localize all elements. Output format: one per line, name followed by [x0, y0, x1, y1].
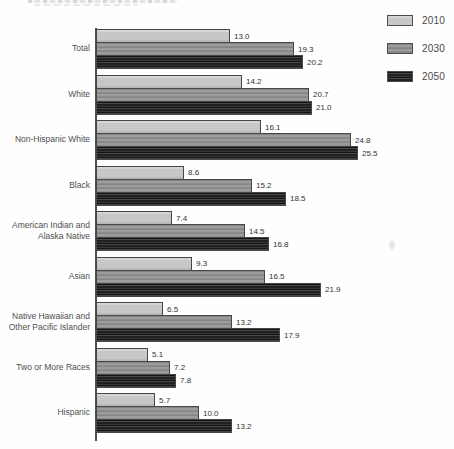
bar-row-2050: 7.8 — [96, 374, 454, 388]
bar-row-2050: 21.0 — [96, 101, 454, 115]
value-label: 7.2 — [174, 363, 185, 372]
legend-label: 2010 — [422, 15, 445, 26]
bar-2050 — [96, 55, 303, 69]
bar-2010 — [96, 393, 155, 407]
value-label: 5.7 — [159, 396, 170, 405]
bar-row-2050: 13.2 — [96, 419, 454, 433]
category-label: Black — [0, 180, 96, 191]
bar-2050 — [96, 419, 232, 433]
bar-stack: 5.17.27.8 — [96, 348, 454, 388]
bar-row-2030: 24.8 — [96, 133, 454, 147]
bar-row-2030: 7.2 — [96, 361, 454, 375]
bar-row-2030: 13.2 — [96, 315, 454, 329]
bar-2030 — [96, 224, 245, 238]
bar-group: Black8.615.218.5 — [0, 166, 454, 206]
bar-group: Non-Hispanic White16.124.825.5 — [0, 120, 454, 160]
bar-row-2050: 20.2 — [96, 55, 454, 69]
bar-row-2010: 5.1 — [96, 348, 454, 362]
bar-2010 — [96, 29, 230, 43]
bar-row-2010: 16.1 — [96, 120, 454, 134]
bar-row-2050: 25.5 — [96, 146, 454, 160]
bar-row-2010: 13.0 — [96, 29, 454, 43]
value-label: 21.9 — [325, 285, 341, 294]
value-label: 14.5 — [249, 227, 265, 236]
bar-row-2030: 20.7 — [96, 88, 454, 102]
value-label: 25.5 — [362, 149, 378, 158]
value-label: 20.2 — [307, 58, 323, 67]
category-label: Total — [0, 43, 96, 54]
value-label: 24.8 — [355, 136, 371, 145]
bar-stack: 6.513.217.9 — [96, 302, 454, 342]
bar-2010 — [96, 348, 148, 362]
bar-2050 — [96, 328, 280, 342]
value-label: 9.3 — [196, 259, 207, 268]
bar-row-2010: 5.7 — [96, 393, 454, 407]
bar-2010 — [96, 302, 163, 316]
value-label: 10.0 — [203, 409, 219, 418]
value-label: 16.1 — [265, 123, 281, 132]
value-label: 21.0 — [316, 103, 332, 112]
bar-2010 — [96, 166, 184, 180]
bar-stack: 9.316.521.9 — [96, 257, 454, 297]
category-label: Non-Hispanic White — [0, 134, 96, 145]
bar-2030 — [96, 315, 232, 329]
category-label: Asian — [0, 271, 96, 282]
bar-row-2050: 18.5 — [96, 192, 454, 206]
value-label: 15.2 — [256, 181, 272, 190]
bar-group: Total13.019.320.2 — [0, 29, 454, 69]
value-label: 7.4 — [176, 214, 187, 223]
bar-2050 — [96, 101, 312, 115]
bar-group: Two or More Races5.17.27.8 — [0, 348, 454, 388]
bar-row-2050: 16.8 — [96, 237, 454, 251]
bar-group: White14.220.721.0 — [0, 75, 454, 115]
bar-2010 — [96, 257, 192, 271]
bar-2010 — [96, 75, 242, 89]
bar-stack: 8.615.218.5 — [96, 166, 454, 206]
cropped-title-fragment-line2 — [34, 4, 138, 6]
bar-2030 — [96, 270, 265, 284]
value-label: 18.5 — [290, 194, 306, 203]
bar-row-2030: 19.3 — [96, 42, 454, 56]
value-label: 5.1 — [152, 350, 163, 359]
bar-stack: 16.124.825.5 — [96, 120, 454, 160]
bar-group: Native Hawaiian and Other Pacific Island… — [0, 302, 454, 342]
bar-2030 — [96, 361, 170, 375]
bar-row-2010: 9.3 — [96, 257, 454, 271]
value-label: 20.7 — [313, 90, 329, 99]
value-label: 16.8 — [273, 240, 289, 249]
bar-group: Asian9.316.521.9 — [0, 257, 454, 297]
value-label: 14.2 — [246, 77, 262, 86]
bar-group: Hispanic5.710.013.2 — [0, 393, 454, 433]
bar-2030 — [96, 406, 199, 420]
cropped-title-fragment — [28, 0, 178, 3]
legend-item-2010: 2010 — [387, 15, 445, 26]
bar-row-2010: 6.5 — [96, 302, 454, 316]
bar-groups: Total13.019.320.2White14.220.721.0Non-Hi… — [0, 29, 454, 433]
value-label: 13.2 — [236, 422, 252, 431]
bar-2010 — [96, 211, 172, 225]
value-label: 6.5 — [167, 305, 178, 314]
bar-2010 — [96, 120, 261, 134]
bar-row-2030: 15.2 — [96, 179, 454, 193]
bar-chart: Total13.019.320.2White14.220.721.0Non-Hi… — [0, 29, 454, 439]
bar-2050 — [96, 192, 286, 206]
category-label: Native Hawaiian and Other Pacific Island… — [0, 311, 96, 333]
bar-stack: 14.220.721.0 — [96, 75, 454, 115]
value-label: 16.5 — [269, 272, 285, 281]
value-label: 13.0 — [234, 32, 250, 41]
bar-group: American Indian and Alaska Native7.414.5… — [0, 211, 454, 251]
value-label: 19.3 — [298, 45, 314, 54]
value-label: 8.6 — [188, 168, 199, 177]
category-label: White — [0, 89, 96, 100]
value-label: 13.2 — [236, 318, 252, 327]
bar-row-2030: 16.5 — [96, 270, 454, 284]
bar-row-2010: 8.6 — [96, 166, 454, 180]
bar-2030 — [96, 179, 252, 193]
bar-row-2050: 17.9 — [96, 328, 454, 342]
value-label: 17.9 — [284, 331, 300, 340]
bar-2050 — [96, 237, 269, 251]
legend-swatch-2010 — [387, 15, 413, 26]
bar-stack: 5.710.013.2 — [96, 393, 454, 433]
bar-2050 — [96, 146, 358, 160]
bar-row-2030: 14.5 — [96, 224, 454, 238]
